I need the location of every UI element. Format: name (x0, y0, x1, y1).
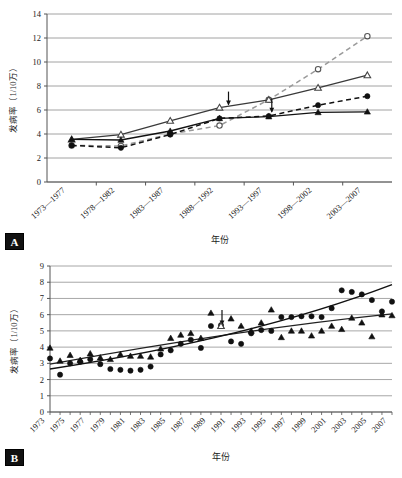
x-tick-label: 1973—1977 (29, 185, 67, 221)
data-point-filled-circle (389, 299, 394, 304)
y-axis-ticks: 02468101214 (33, 9, 48, 187)
svg-text:2: 2 (37, 153, 41, 163)
svg-text:7: 7 (40, 293, 44, 303)
data-point-filled-triangle (238, 323, 244, 328)
x-axis-title: 年份 (212, 451, 230, 462)
svg-text:10: 10 (33, 57, 42, 67)
data-point-filled-circle (47, 356, 52, 361)
x-tick-label: 1995 (249, 415, 268, 434)
x-tick-label: 1973 (27, 415, 46, 434)
x-tick-label: 1985 (148, 415, 167, 434)
data-point-filled-circle (138, 367, 143, 372)
data-point-filled-circle (178, 341, 183, 346)
svg-text:6: 6 (40, 310, 44, 320)
svg-text:2: 2 (40, 375, 44, 385)
x-tick-label: 1981 (108, 415, 127, 434)
data-point-filled-circle (208, 323, 213, 328)
x-tick-label: 2007 (369, 415, 388, 434)
svg-text:8: 8 (40, 277, 44, 287)
x-tick-label: 2003 (329, 415, 348, 434)
figure-container: 024681012141973—19771978—19821983—198719… (0, 0, 402, 478)
svg-text:12: 12 (33, 33, 42, 43)
y-axis-ticks: 0123456789 (40, 261, 50, 417)
series-filled-triangle (47, 307, 395, 364)
data-point-filled-triangle (329, 323, 335, 328)
x-tick-label: 2001 (309, 415, 328, 434)
x-axis-ticks: 1973197519771979198119831985198719891991… (27, 412, 392, 434)
data-point-filled-circle (329, 306, 334, 311)
series-line-open-circle-dashed (72, 36, 368, 146)
x-tick-label: 1978—1982 (78, 185, 116, 221)
data-point-filled-circle (68, 361, 73, 366)
data-point-filled-triangle (318, 328, 324, 333)
data-point-filled-circle (339, 288, 344, 293)
data-point-open-circle (315, 67, 320, 72)
data-point-filled-circle (289, 315, 294, 320)
x-tick-label: 2005 (349, 415, 368, 434)
data-point-filled-triangle (168, 335, 174, 340)
data-point-filled-circle (148, 364, 153, 369)
svg-text:14: 14 (33, 9, 42, 19)
data-point-filled-circle (118, 367, 123, 372)
x-tick-label: 1998—2002 (275, 185, 313, 221)
x-tick-label: 1997 (269, 415, 288, 434)
svg-text:0: 0 (40, 407, 44, 417)
data-point-open-circle (217, 123, 222, 128)
svg-text:1: 1 (40, 391, 44, 401)
x-tick-label: 1989 (188, 415, 207, 434)
x-tick-label: 1983—1987 (127, 185, 165, 221)
data-point-filled-circle (198, 345, 203, 350)
data-point-filled-triangle (288, 328, 294, 333)
x-axis-title: 年份 (211, 234, 229, 245)
data-point-filled-circle (158, 352, 163, 357)
data-point-filled-triangle (258, 320, 264, 325)
series-filled-circle (47, 288, 394, 378)
panel-label-a: A (5, 233, 24, 250)
data-point-filled-circle (188, 337, 193, 342)
x-tick-label: 1999 (289, 415, 308, 434)
svg-text:4: 4 (40, 342, 45, 352)
x-tick-label: 1993—1997 (226, 185, 264, 221)
data-point-filled-triangle (268, 307, 274, 312)
data-point-filled-triangle (147, 354, 153, 359)
data-point-filled-triangle (208, 310, 214, 315)
data-point-filled-circle (299, 314, 304, 319)
data-point-filled-circle (168, 348, 173, 353)
data-point-filled-circle (349, 289, 354, 294)
svg-text:6: 6 (37, 105, 41, 115)
data-point-filled-circle (118, 145, 123, 150)
data-point-filled-circle (365, 94, 370, 99)
data-point-filled-circle (309, 314, 314, 319)
svg-text:8: 8 (37, 81, 41, 91)
x-tick-label: 1991 (208, 415, 227, 434)
svg-text:5: 5 (40, 326, 44, 336)
data-point-filled-triangle (298, 328, 304, 333)
svg-text:3: 3 (40, 358, 44, 368)
data-point-filled-triangle (228, 316, 234, 321)
data-point-filled-circle (98, 362, 103, 367)
data-point-open-circle (365, 34, 370, 39)
x-tick-label: 1983 (128, 415, 147, 434)
data-point-filled-circle (57, 372, 62, 377)
data-point-filled-circle (379, 309, 384, 314)
data-point-filled-triangle (339, 326, 345, 331)
data-point-filled-circle (239, 341, 244, 346)
data-point-filled-circle (269, 328, 274, 333)
x-tick-label: 1988—1992 (177, 185, 215, 221)
data-point-filled-triangle (67, 352, 73, 357)
data-point-filled-triangle (87, 351, 93, 356)
svg-text:9: 9 (40, 261, 44, 271)
data-point-filled-circle (108, 366, 113, 371)
chart-panel-a: 024681012141973—19771978—19821983—198719… (0, 0, 402, 252)
x-tick-label: 1975 (47, 415, 66, 434)
x-tick-label: 1977 (68, 415, 87, 434)
data-point-filled-triangle (278, 334, 284, 339)
x-tick-label: 1993 (228, 415, 247, 434)
x-tick-label: 1987 (168, 415, 187, 434)
data-point-filled-circle (128, 368, 133, 373)
data-point-filled-circle (259, 327, 264, 332)
data-point-filled-circle (228, 339, 233, 344)
chart-panel-b: 0123456789197319751977197919811983198519… (0, 252, 402, 478)
panel-label-b: B (5, 449, 24, 466)
data-point-filled-triangle (308, 333, 314, 338)
